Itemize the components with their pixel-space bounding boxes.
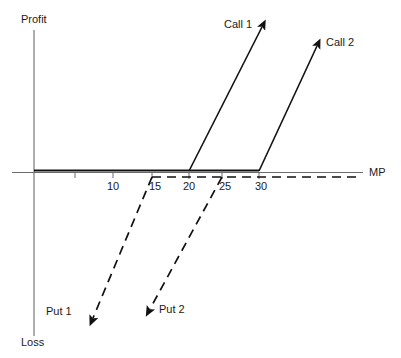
series-line-call-1 [189, 27, 262, 171]
y-axis-title-profit: Profit [21, 13, 47, 25]
series-label-call-1: Call 1 [224, 18, 252, 30]
series-line-call-2 [259, 46, 317, 171]
x-tick-label-25: 25 [215, 180, 235, 192]
series-label-call-2: Call 2 [326, 36, 354, 48]
series-label-put-2: Put 2 [159, 303, 185, 315]
x-tick-label-10: 10 [103, 180, 123, 192]
x-tick-label-30: 30 [251, 180, 271, 192]
series-line-put-2 [150, 177, 222, 309]
x-tick-label-20: 20 [179, 180, 199, 192]
series-line-put-1 [93, 177, 152, 318]
x-axis-title-mp: MP [369, 166, 386, 178]
payoff-diagram-figure: Profit Loss MP 10 15 20 25 30 Call 1 Cal… [0, 0, 401, 358]
x-tick-label-15: 15 [145, 180, 165, 192]
series-label-put-1: Put 1 [46, 305, 72, 317]
y-axis-title-loss: Loss [21, 336, 44, 348]
